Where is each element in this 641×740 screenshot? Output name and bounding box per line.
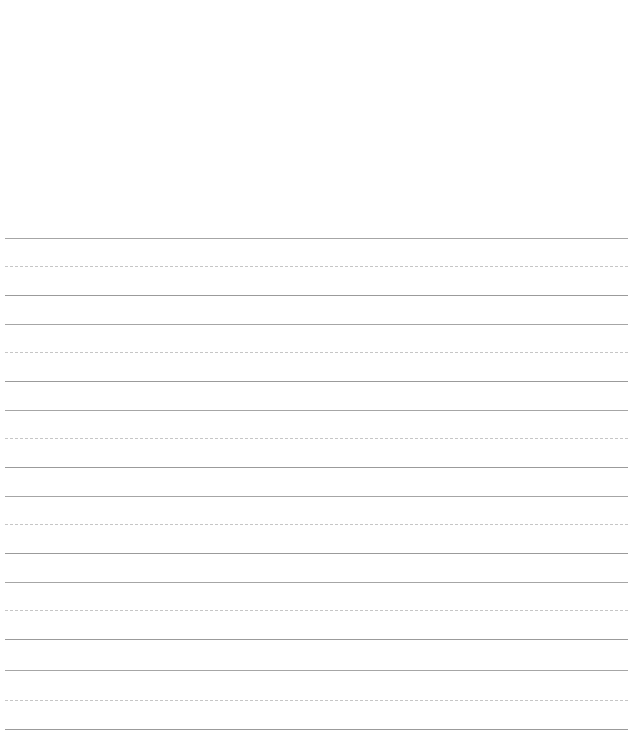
rule-line-midline-13	[5, 610, 628, 611]
rule-line-baseline-17	[5, 729, 628, 730]
rule-line-topline-0	[5, 238, 628, 239]
ruled-paper-page	[0, 0, 641, 740]
rule-line-baseline-2	[5, 295, 628, 296]
rule-line-baseline-14	[5, 639, 628, 640]
rule-line-midline-4	[5, 352, 628, 353]
rule-line-midline-10	[5, 524, 628, 525]
rule-line-topline-15	[5, 670, 628, 671]
blank-header-area	[0, 0, 641, 230]
writing-lines-area[interactable]	[0, 230, 641, 740]
rule-line-midline-7	[5, 438, 628, 439]
rule-line-topline-9	[5, 496, 628, 497]
rule-line-topline-3	[5, 324, 628, 325]
rule-line-topline-12	[5, 582, 628, 583]
rule-line-baseline-8	[5, 467, 628, 468]
rule-line-topline-6	[5, 410, 628, 411]
rule-line-midline-1	[5, 266, 628, 267]
rule-line-baseline-11	[5, 553, 628, 554]
rule-line-baseline-5	[5, 381, 628, 382]
rule-line-midline-16	[5, 700, 628, 701]
